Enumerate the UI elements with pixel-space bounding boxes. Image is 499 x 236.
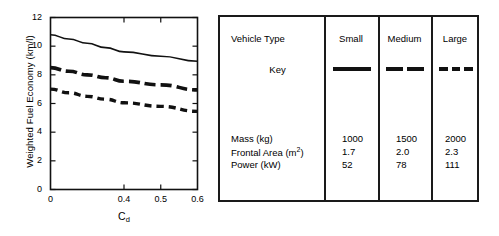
table-column-divider [431,17,433,200]
figure-root: Weighted Fuel Economy (km/l) Cd 02468101… [0,0,499,236]
table-column-divider [378,17,380,200]
key-line-segment [386,67,403,71]
frontal-area-label-tail: ) [300,147,303,158]
y-tick-label: 2 [22,155,42,165]
table-cell-mass-small: 1000 [324,133,378,144]
table-cell-frontal-area-large: 2.3 [431,146,479,157]
key-line-segment [407,67,424,71]
table-cell-mass-large: 2000 [431,133,479,144]
table-header-row-label: Vehicle Type [231,33,285,44]
y-tick-label: 12 [22,12,42,22]
y-tick-label: 4 [22,126,42,136]
y-tick-label: 6 [22,98,42,108]
frontal-area-label-base: Frontal Area (m [231,147,296,158]
x-tick-label: 0.6 [186,194,210,204]
y-tick-label: 0 [22,184,42,194]
key-line-segment [464,67,473,71]
key-line-segment [452,67,461,71]
table-header-small: Small [324,33,378,44]
table-row-label-frontal-area: Frontal Area (m2) [231,146,304,158]
table-header-large: Large [431,33,479,44]
x-axis-ticks [124,18,161,190]
table-cell-frontal-area-small: 1.7 [324,146,378,157]
x-axis-title-subscript: d [126,215,130,224]
x-axis-title-base: C [118,210,126,222]
chart-series-line-large [51,89,198,111]
table-cell-power-small: 52 [324,159,378,170]
table-row-label-mass: Mass (kg) [231,133,273,144]
table-cell-power-medium: 78 [378,159,431,170]
key-line-swatch-large [439,67,473,71]
key-line-swatch-small [333,67,371,71]
x-tick-label: 0.5 [149,194,173,204]
vehicle-spec-table: Vehicle Type Small Medium Large Key Mass… [218,15,479,202]
key-line-segment [333,67,371,71]
key-line-segment [439,67,448,71]
table-key-row-label: Key [231,64,324,75]
chart-series-line-small [51,35,198,62]
table-column-divider [324,17,326,200]
x-axis-title: Cd [50,210,198,224]
table-cell-power-large: 111 [431,159,479,170]
table-header-medium: Medium [378,33,431,44]
x-tick-label: 0 [39,194,63,204]
y-tick-label: 8 [22,69,42,79]
y-tick-label: 10 [22,40,42,50]
key-line-swatch-medium [386,67,424,71]
chart-series-line-medium [51,68,198,90]
table-row-label-power: Power (kW) [231,159,281,170]
x-tick-label: 0.4 [112,194,136,204]
table-cell-frontal-area-medium: 2.0 [378,146,431,157]
chart-panel: Weighted Fuel Economy (km/l) Cd 02468101… [0,0,215,236]
chart-series-group [51,35,198,112]
table-cell-mass-medium: 1500 [378,133,431,144]
